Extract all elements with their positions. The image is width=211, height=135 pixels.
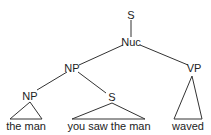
node-vp: VP (187, 63, 202, 74)
syntax-tree-diagram: S Nuc NP VP NP S the man you saw the man… (0, 0, 211, 135)
node-s-inner: S (108, 92, 115, 103)
node-s-root: S (127, 10, 134, 21)
node-nuc: Nuc (121, 37, 141, 48)
leaf-np: the man (6, 121, 46, 132)
leaf-s: you saw the man (67, 121, 150, 132)
leaf-vp: waved (172, 121, 204, 132)
node-np-inner: NP (22, 91, 37, 102)
tree-edges (0, 0, 211, 135)
node-np: NP (64, 63, 79, 74)
